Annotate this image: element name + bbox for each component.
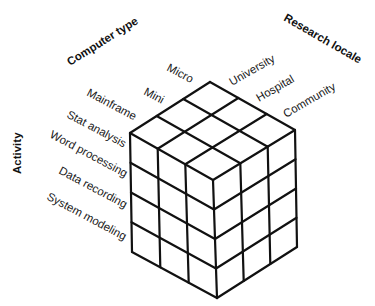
axis-title-research-locale: Research locale <box>282 11 364 65</box>
label-computer-micro: Micro <box>165 61 195 85</box>
axis-title-activity: Activity <box>11 132 23 174</box>
label-locale-hospital: Hospital <box>254 73 296 104</box>
label-computer-mini: Mini <box>142 85 166 105</box>
classification-cube-diagram: Computer type Research locale Activity M… <box>0 0 375 306</box>
cube <box>130 82 297 298</box>
axis-title-computer-type: Computer type <box>65 15 140 68</box>
label-locale-university: University <box>227 52 277 88</box>
label-computer-mainframe: Mainframe <box>85 86 139 122</box>
